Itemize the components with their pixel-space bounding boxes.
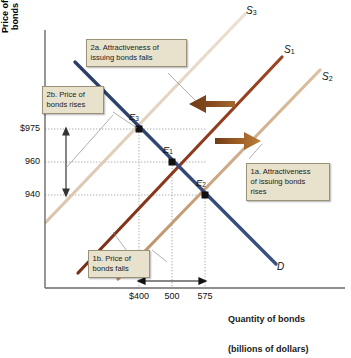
curve-label-s2: S2: [322, 72, 333, 83]
callout-1b-line2: bonds falls: [93, 264, 146, 274]
y-tick-940: 940: [0, 190, 40, 200]
callout-1a-line1: 1a. Attractiveness: [251, 167, 326, 177]
callout-2b-line1: 2b. Price of: [47, 90, 100, 100]
leader-2a: [168, 73, 196, 101]
callout-2a-line2: issuing bonds falls: [91, 53, 183, 63]
x-axis-title-main: Quantity of bonds: [228, 315, 309, 325]
y-tick-975: $975: [0, 124, 40, 134]
leader-1b-alt: [152, 250, 167, 262]
leftward-supply-shift-arrow: [189, 95, 235, 113]
x-axis-title: Quantity of bonds (billions of dollars): [228, 296, 309, 358]
point-label-e3: E3: [129, 112, 139, 122]
x-tick-575: 575: [187, 292, 223, 302]
callout-2b[interactable]: 2b. Price of bonds rises: [42, 86, 104, 114]
marker-e3: [136, 126, 143, 133]
callout-1a[interactable]: 1a. Attractiveness of issuing bonds rise…: [246, 163, 330, 201]
point-label-e2: E2: [196, 178, 206, 188]
callout-2b-line2: bonds rises: [47, 100, 100, 110]
marker-e1: [169, 159, 176, 166]
point-label-e1: E1: [163, 145, 173, 155]
leader-1b: [113, 232, 127, 251]
callout-1a-line3: rises: [251, 187, 326, 197]
y-axis-title-line2: bonds: [10, 3, 20, 30]
x-axis-title-units: (billions of dollars): [228, 345, 309, 355]
callout-1b[interactable]: 1b. Price of bonds falls: [88, 250, 150, 278]
curve-label-s1: S1: [284, 45, 295, 56]
y-tick-960: 960: [0, 157, 40, 167]
rightward-supply-shift-arrow: [215, 132, 261, 150]
curve-label-s3: S3: [246, 6, 257, 17]
marker-e2: [202, 192, 209, 199]
y-axis-title-line1: Price of: [0, 0, 10, 33]
x-tick-400: $400: [119, 292, 159, 302]
callout-2a-line1: 2a. Attractiveness of: [91, 43, 183, 53]
curve-label-d: D: [277, 262, 284, 273]
x-tick-500: 500: [154, 292, 190, 302]
callout-1b-line1: 1b. Price of: [93, 254, 146, 264]
callout-2a[interactable]: 2a. Attractiveness of issuing bonds fall…: [86, 39, 187, 67]
callout-1a-line2: of issuing bonds: [251, 177, 326, 187]
